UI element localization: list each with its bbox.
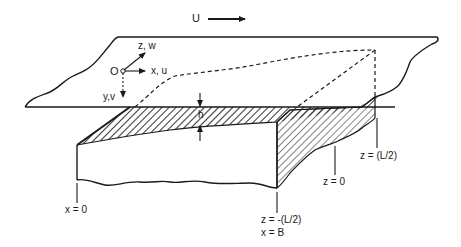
flow-velocity-label: U [192,13,200,24]
z-axis-arrow [124,53,145,70]
hidden-lines [135,50,375,107]
z-center-label: z = 0 [323,177,345,187]
x-start-label: x = 0 [65,205,87,215]
z-axis-label: z, w [138,41,156,51]
top-plate [25,37,438,107]
x-end-label: x = B [261,228,284,238]
z-left-label: z = -(L/2) [261,215,301,225]
origin-label: O [110,66,119,77]
block-side-face [277,97,375,188]
gap-height-label: h [198,110,204,120]
z-right-label: z = (L/2) [360,151,397,161]
y-axis-label: y,v [103,92,115,102]
x-axis-label: x, u [151,66,167,76]
coordinate-axes [121,53,145,97]
